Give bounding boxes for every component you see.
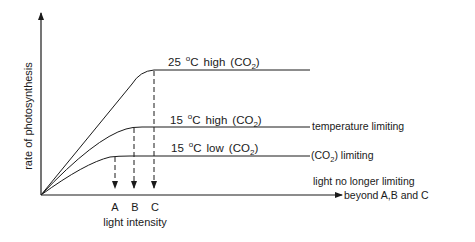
annotation-co2-limiting: (CO2) limiting [311,149,374,164]
point-label-a: A [111,201,119,213]
curve-25c-high-co2 [41,70,310,195]
photosynthesis-diagram: rate of photosynthesis A B C light inten… [0,0,475,242]
curve-15c-low-co2 [41,156,310,195]
point-label-c: C [151,201,159,213]
point-label-b: B [131,201,138,213]
y-axis-label: rate of photosynthesis [22,62,34,170]
curve-15c-high-co2 [41,127,310,195]
curve-label-25c-high: 25oChigh(CO2) [168,54,260,71]
curve-label-15c-high: 15oChigh(CO2) [170,112,262,129]
annotation-temperature-limiting: temperature limiting [312,120,404,132]
x-axis-label: light intensity [103,216,167,228]
annotation-light-no-longer-limiting: light no longer limiting [313,175,415,187]
annotation-beyond-abc: beyond A,B and C [344,189,429,201]
curve-label-15c-low: 15oClow(CO2) [171,140,258,157]
